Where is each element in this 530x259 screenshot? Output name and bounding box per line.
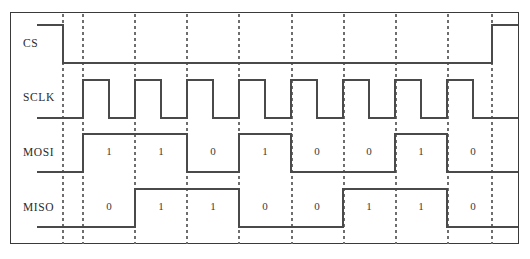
signal-label-sclk: SCLK <box>23 91 55 103</box>
signal-label-cs: CS <box>23 37 38 49</box>
bit-label-mosi-7: 0 <box>470 145 476 157</box>
waveform-sclk <box>37 80 518 118</box>
bit-label-miso-0: 0 <box>106 200 112 212</box>
waveform-cs <box>37 25 518 63</box>
signal-label-miso: MISO <box>23 201 54 213</box>
bit-label-miso-4: 0 <box>314 200 320 212</box>
diagram-frame: CSSCLKMOSIMISO 1101001001100110 <box>10 12 519 244</box>
bit-label-miso-2: 1 <box>210 200 216 212</box>
bit-label-miso-3: 0 <box>262 200 268 212</box>
bit-label-mosi-4: 0 <box>314 145 320 157</box>
bit-label-mosi-0: 1 <box>106 145 112 157</box>
dashed-gridlines <box>63 14 492 244</box>
bit-label-mosi-6: 1 <box>418 145 424 157</box>
spi-timing-diagram-root: CSSCLKMOSIMISO 1101001001100110 <box>0 0 530 259</box>
bit-label-miso-6: 1 <box>418 200 424 212</box>
signal-waveforms <box>37 25 518 227</box>
bit-label-mosi-5: 0 <box>366 145 372 157</box>
bit-label-miso-7: 0 <box>470 200 476 212</box>
signal-label-mosi: MOSI <box>23 146 54 158</box>
bit-label-miso-1: 1 <box>158 200 164 212</box>
bit-label-miso-5: 1 <box>366 200 372 212</box>
bit-label-mosi-3: 1 <box>262 145 268 157</box>
bit-label-mosi-2: 0 <box>210 145 216 157</box>
bit-label-mosi-1: 1 <box>158 145 164 157</box>
